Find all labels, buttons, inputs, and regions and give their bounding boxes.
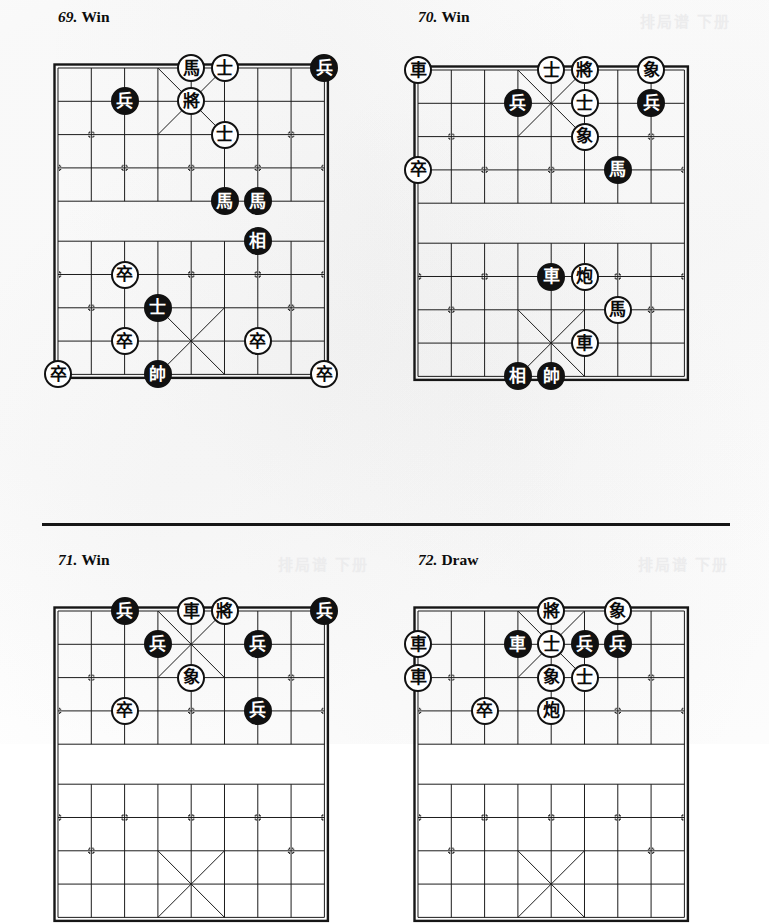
piece-glyph: 帥 <box>149 365 166 382</box>
white-soldier-piece[interactable]: 卒 <box>111 327 139 355</box>
white-horse-piece[interactable]: 馬 <box>177 54 205 82</box>
black-soldier-piece[interactable]: 兵 <box>504 89 532 117</box>
piece-glyph: 象 <box>576 128 593 145</box>
white-soldier-piece[interactable]: 卒 <box>244 327 272 355</box>
black-horse-piece[interactable]: 馬 <box>604 156 632 184</box>
piece-glyph: 兵 <box>609 635 626 652</box>
white-elephant-piece[interactable]: 象 <box>571 123 599 151</box>
xiangqi-board: 兵車將兵兵兵象卒兵 <box>52 605 330 923</box>
white-horse-piece[interactable]: 馬 <box>604 296 632 324</box>
piece-glyph: 馬 <box>609 301 626 318</box>
piece-glyph: 車 <box>410 669 427 686</box>
black-soldier-piece[interactable]: 兵 <box>111 597 139 625</box>
problem-result: Draw <box>441 551 478 568</box>
piece-glyph: 象 <box>183 669 200 686</box>
problem-number: 71. <box>58 551 77 568</box>
piece-glyph: 炮 <box>543 702 560 719</box>
piece-glyph: 兵 <box>249 635 266 652</box>
white-soldier-piece[interactable]: 卒 <box>111 261 139 289</box>
white-cannon-piece[interactable]: 炮 <box>537 697 565 725</box>
piece-glyph: 兵 <box>509 94 526 111</box>
white-advisor-piece[interactable]: 士 <box>571 89 599 117</box>
piece-glyph: 士 <box>149 299 166 316</box>
problem-result: Win <box>441 8 469 25</box>
piece-glyph: 兵 <box>576 635 593 652</box>
piece-glyph: 馬 <box>183 59 200 76</box>
white-advisor-piece[interactable]: 士 <box>537 56 565 84</box>
problem-title: 69.Win <box>58 8 110 26</box>
white-general-piece[interactable]: 將 <box>211 597 239 625</box>
white-elephant-piece[interactable]: 象 <box>604 597 632 625</box>
piece-glyph: 車 <box>410 61 427 78</box>
black-soldier-piece[interactable]: 兵 <box>144 630 172 658</box>
white-elephant-piece[interactable]: 象 <box>637 56 665 84</box>
white-advisor-piece[interactable]: 士 <box>571 664 599 692</box>
black-elephant-piece[interactable]: 相 <box>244 227 272 255</box>
white-advisor-piece[interactable]: 士 <box>211 121 239 149</box>
white-soldier-piece[interactable]: 卒 <box>111 697 139 725</box>
piece-glyph: 卒 <box>116 266 133 283</box>
problem-result: Win <box>81 551 109 568</box>
piece-glyph: 炮 <box>576 268 593 285</box>
piece-glyph: 卒 <box>476 702 493 719</box>
piece-glyph: 士 <box>216 126 233 143</box>
piece-glyph: 象 <box>643 61 660 78</box>
black-soldier-piece[interactable]: 兵 <box>111 87 139 115</box>
white-general-piece[interactable]: 將 <box>571 56 599 84</box>
black-elephant-piece[interactable]: 相 <box>504 362 532 390</box>
white-soldier-piece[interactable]: 卒 <box>44 360 72 388</box>
black-soldier-piece[interactable]: 兵 <box>571 630 599 658</box>
black-soldier-piece[interactable]: 兵 <box>604 630 632 658</box>
bleed-through-text-mid: 排局谱 下册 <box>278 553 369 574</box>
piece-glyph: 兵 <box>316 59 333 76</box>
black-soldier-piece[interactable]: 兵 <box>244 697 272 725</box>
white-cannon-piece[interactable]: 炮 <box>571 263 599 291</box>
white-elephant-piece[interactable]: 象 <box>177 664 205 692</box>
piece-glyph: 兵 <box>316 602 333 619</box>
piece-glyph: 士 <box>216 59 233 76</box>
piece-glyph: 卒 <box>410 161 427 178</box>
problem-number: 70. <box>418 8 437 25</box>
piece-glyph: 帥 <box>543 367 560 384</box>
piece-glyph: 兵 <box>249 702 266 719</box>
black-horse-piece[interactable]: 馬 <box>244 187 272 215</box>
problem-number: 69. <box>58 8 77 25</box>
xiangqi-board: 馬士兵兵將士馬馬相卒士卒卒卒帥卒 <box>52 62 330 380</box>
board-grid <box>52 605 330 923</box>
white-chariot-piece[interactable]: 車 <box>177 597 205 625</box>
section-divider <box>42 523 730 526</box>
bleed-through-text-top: 排局谱 下册 <box>640 10 731 31</box>
white-soldier-piece[interactable]: 卒 <box>471 697 499 725</box>
black-marshal-piece[interactable]: 帥 <box>537 362 565 390</box>
problem-title: 70.Win <box>418 8 470 26</box>
white-general-piece[interactable]: 將 <box>537 597 565 625</box>
white-advisor-piece[interactable]: 士 <box>211 54 239 82</box>
piece-glyph: 士 <box>576 94 593 111</box>
piece-glyph: 士 <box>543 61 560 78</box>
piece-glyph: 象 <box>543 669 560 686</box>
white-elephant-piece[interactable]: 象 <box>537 664 565 692</box>
piece-glyph: 卒 <box>116 702 133 719</box>
white-chariot-piece[interactable]: 車 <box>404 56 432 84</box>
piece-glyph: 馬 <box>216 192 233 209</box>
white-chariot-piece[interactable]: 車 <box>571 329 599 357</box>
black-advisor-piece[interactable]: 士 <box>144 294 172 322</box>
black-chariot-piece[interactable]: 車 <box>504 630 532 658</box>
piece-glyph: 士 <box>543 635 560 652</box>
white-chariot-piece[interactable]: 車 <box>404 664 432 692</box>
black-soldier-piece[interactable]: 兵 <box>310 54 338 82</box>
black-soldier-piece[interactable]: 兵 <box>244 630 272 658</box>
piece-glyph: 兵 <box>116 602 133 619</box>
piece-glyph: 兵 <box>643 94 660 111</box>
piece-glyph: 車 <box>509 635 526 652</box>
black-horse-piece[interactable]: 馬 <box>211 187 239 215</box>
piece-glyph: 士 <box>576 669 593 686</box>
white-soldier-piece[interactable]: 卒 <box>310 360 338 388</box>
black-marshal-piece[interactable]: 帥 <box>144 360 172 388</box>
black-chariot-piece[interactable]: 車 <box>537 263 565 291</box>
bleed-through-text-mid2: 排局谱 下册 <box>638 553 729 574</box>
piece-glyph: 馬 <box>249 192 266 209</box>
black-soldier-piece[interactable]: 兵 <box>310 597 338 625</box>
white-soldier-piece[interactable]: 卒 <box>404 156 432 184</box>
xiangqi-board: 將象車車士兵兵車象士卒炮 <box>412 605 690 923</box>
